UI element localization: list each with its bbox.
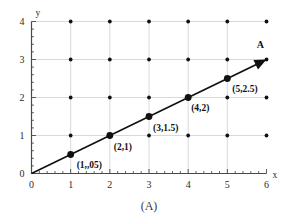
lattice-dot — [69, 96, 73, 100]
lattice-dot — [265, 134, 269, 138]
lattice-dot — [265, 20, 269, 24]
data-point-label: (1,,05) — [77, 160, 102, 171]
lattice-dot — [147, 20, 151, 24]
lattice-dot — [69, 20, 73, 24]
data-point-label: (5,2.5) — [232, 84, 257, 95]
figure-container: 012345601234 (1,,05)(2,1)(3,1.5)(4,2)(5,… — [0, 0, 284, 219]
y-tick-label: 2 — [20, 92, 25, 103]
data-point-marker — [224, 75, 231, 82]
y-tick-label: 1 — [20, 130, 25, 141]
y-tick-label: 0 — [20, 168, 25, 179]
lattice-dot — [108, 96, 112, 100]
x-tick-label: 1 — [68, 179, 73, 190]
data-point-label: (2,1) — [114, 142, 132, 153]
lattice-dot — [225, 20, 229, 24]
y-tick-label: 4 — [20, 16, 25, 27]
data-point-marker — [185, 94, 192, 101]
lattice-dot — [108, 20, 112, 24]
lattice-dot — [225, 134, 229, 138]
lattice-dot — [69, 134, 73, 138]
lattice-dot — [186, 58, 190, 62]
coordinate-plot: 012345601234 (1,,05)(2,1)(3,1.5)(4,2)(5,… — [0, 0, 284, 219]
x-axis-label: x — [273, 170, 278, 180]
x-tick-label: 5 — [225, 179, 230, 190]
x-tick-label: 0 — [29, 179, 34, 190]
x-tick-label: 4 — [186, 179, 191, 190]
lattice-dot — [186, 20, 190, 24]
x-tick-label: 2 — [107, 179, 112, 190]
lattice-dot — [225, 96, 229, 100]
data-point-marker — [146, 113, 153, 120]
lattice-dot — [147, 58, 151, 62]
y-axis-label: y — [36, 8, 41, 18]
x-tick-label: 3 — [147, 179, 152, 190]
plot-background — [0, 0, 284, 219]
y-tick-label: 3 — [20, 54, 25, 65]
data-point-label: (3,1.5) — [153, 123, 178, 134]
lattice-dot — [186, 134, 190, 138]
data-point-label: (4,2) — [191, 103, 209, 114]
lattice-dot — [69, 58, 73, 62]
figure-caption: (A) — [141, 199, 158, 213]
lattice-dot — [108, 58, 112, 62]
lattice-dot — [147, 134, 151, 138]
vector-name-label: A — [257, 39, 265, 50]
data-point-marker — [67, 151, 74, 158]
lattice-dot — [265, 96, 269, 100]
x-tick-label: 6 — [264, 179, 269, 190]
data-point-marker — [106, 132, 113, 139]
lattice-dot — [147, 96, 151, 100]
lattice-dot — [225, 58, 229, 62]
